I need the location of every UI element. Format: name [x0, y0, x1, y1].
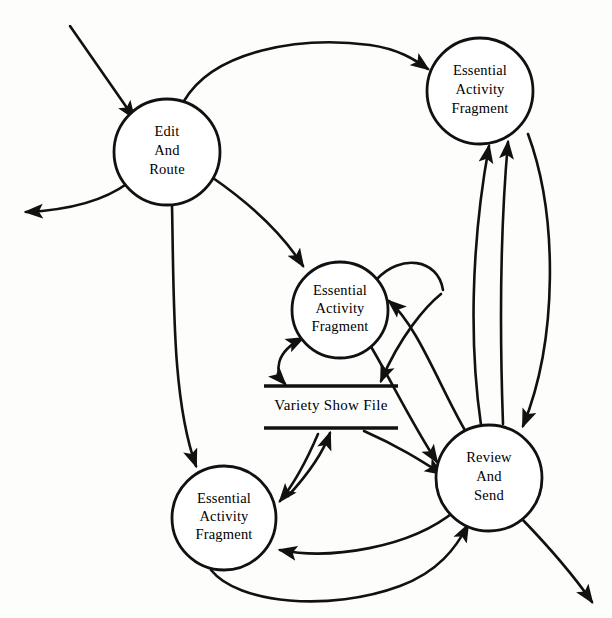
process-label-line-2: And	[154, 142, 180, 158]
flow-edit-to-eaf-top-right	[184, 42, 428, 101]
process-label-line-2: Activity	[455, 81, 505, 97]
process-label-line-3: Send	[474, 487, 504, 503]
flow-review-to-eaf-top-right-b	[501, 142, 508, 424]
process-label-line-3: Fragment	[195, 526, 252, 542]
process-label-line-3: Route	[149, 161, 185, 177]
process-label-line-1: Edit	[155, 123, 180, 139]
process-eaf-bottom-left[interactable]: Essential Activity Fragment	[172, 466, 276, 570]
flow-review-to-eaf-center	[389, 301, 466, 432]
dfd-canvas: Variety Show File Edit And Route Essenti…	[0, 0, 612, 618]
flow-eaf-center-store-double	[278, 338, 303, 384]
process-edit-and-route[interactable]: Edit And Route	[114, 99, 220, 205]
process-label-line-1: Review	[466, 449, 512, 465]
dfd-diagram: Variety Show File Edit And Route Essenti…	[0, 0, 612, 618]
flow-edit-to-external-out	[26, 183, 128, 212]
process-review-and-send[interactable]: Review And Send	[436, 425, 542, 531]
process-eaf-top-right[interactable]: Essential Activity Fragment	[427, 38, 533, 144]
process-eaf-center[interactable]: Essential Activity Fragment	[292, 262, 388, 358]
process-label-line-3: Fragment	[311, 318, 368, 334]
flow-eaf-bottom-left-to-store	[288, 433, 330, 496]
flow-review-to-external-out	[521, 518, 592, 602]
flow-arc-over-eaf-center	[377, 263, 443, 290]
data-store-variety-show-file[interactable]: Variety Show File	[264, 386, 398, 428]
process-label-line-3: Fragment	[451, 100, 508, 116]
flow-edit-to-eaf-center	[213, 178, 303, 266]
process-label-line-2: Activity	[199, 508, 249, 524]
flow-external-in-to-edit	[70, 26, 134, 118]
process-label-line-2: And	[476, 468, 502, 484]
flow-edit-to-eaf-bottom-left	[172, 205, 196, 466]
process-label-line-1: Essential	[313, 282, 367, 298]
flow-eaf-top-right-to-review	[523, 134, 550, 426]
process-label-line-2: Activity	[315, 300, 365, 316]
flow-review-to-eaf-bottom-left	[280, 511, 455, 553]
data-store-label: Variety Show File	[274, 397, 387, 413]
process-label-line-1: Essential	[453, 62, 507, 78]
process-label-line-1: Essential	[197, 490, 251, 506]
flow-review-to-eaf-top-right-a	[474, 146, 489, 425]
